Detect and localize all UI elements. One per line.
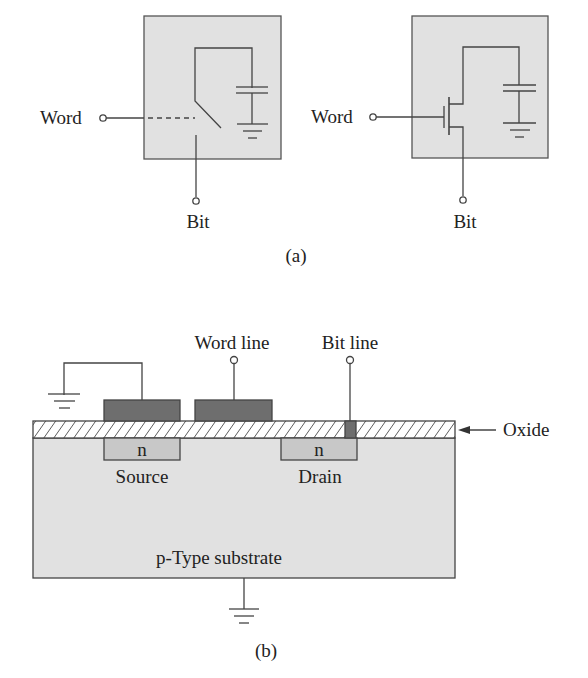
caption-a: (a) bbox=[285, 246, 306, 265]
bit-terminal-icon bbox=[193, 198, 199, 204]
word-label-transistor: Word bbox=[311, 107, 353, 126]
drain-label: Drain bbox=[298, 467, 341, 486]
capacitor-plate bbox=[104, 400, 180, 421]
transistor-cell bbox=[370, 16, 548, 203]
switch-cell bbox=[100, 16, 281, 204]
word-label-switch: Word bbox=[40, 108, 82, 127]
caption-b: (b) bbox=[255, 641, 277, 660]
word-terminal-icon bbox=[100, 115, 106, 121]
dram-cell-diagram bbox=[0, 0, 588, 678]
source-label: Source bbox=[116, 467, 169, 486]
bit-label-switch: Bit bbox=[186, 212, 209, 231]
mos-cross-section bbox=[33, 357, 496, 624]
gate bbox=[195, 400, 272, 421]
substrate-label: p-Type substrate bbox=[156, 548, 282, 567]
bit-line-label: Bit line bbox=[322, 333, 378, 352]
word-terminal-icon bbox=[370, 114, 376, 120]
bit-contact bbox=[345, 421, 356, 438]
word-line-label: Word line bbox=[195, 333, 270, 352]
drain-n-label: n bbox=[314, 440, 324, 459]
source-n-label: n bbox=[137, 440, 147, 459]
bit-label-transistor: Bit bbox=[453, 212, 476, 231]
oxide-label: Oxide bbox=[503, 420, 549, 439]
bit-terminal-icon bbox=[460, 197, 466, 203]
